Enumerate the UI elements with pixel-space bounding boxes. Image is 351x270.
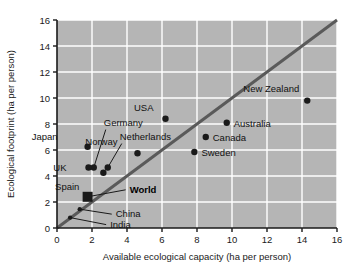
x-axis-tick-label: 8 [194,234,199,245]
data-point-canada[interactable] [203,134,209,140]
data-label-new-zealand: New Zealand [243,83,299,94]
data-point-netherlands[interactable] [105,164,111,170]
y-axis-tick-label: 12 [39,67,50,78]
y-axis-tick-label: 14 [39,41,50,52]
y-axis-tick-label: 16 [39,15,50,26]
data-label-china: China [116,208,142,219]
data-label-germany: Germany [104,117,143,128]
x-axis-tick-label: 6 [159,234,164,245]
y-axis-tick-label: 10 [39,93,50,104]
ecological-footprint-scatter-chart: 02468101214160246810121416Available ecol… [0,0,351,270]
data-point-new-zealand[interactable] [304,97,310,103]
data-label-sweden: Sweden [201,147,235,158]
y-axis-tick-label: 2 [45,197,50,208]
x-axis-tick-label: 14 [297,234,308,245]
x-axis-tick-label: 4 [124,234,129,245]
data-point-norway[interactable] [134,150,140,156]
y-axis-tick-label: 0 [45,223,50,234]
data-point-china[interactable] [78,207,82,211]
data-label-spain: Spain [55,181,79,192]
x-axis-tick-label: 0 [54,234,59,245]
x-axis-title: Available ecological capacity (ha per pe… [103,251,291,262]
x-axis-tick-label: 12 [262,234,273,245]
data-label-world: World [130,184,157,195]
data-point-india[interactable] [68,215,72,219]
y-axis-tick-label: 6 [45,145,50,156]
chart-canvas: 02468101214160246810121416Available ecol… [0,0,351,270]
data-point-australia[interactable] [224,120,230,126]
data-label-uk: UK [53,162,67,173]
x-axis-tick-label: 16 [332,234,343,245]
y-axis-tick-label: 4 [45,171,50,182]
data-label-norway: Norway [85,136,117,147]
data-point-sweden[interactable] [191,149,197,155]
data-label-japan: Japan [32,131,58,142]
data-label-usa: USA [134,102,154,113]
x-axis-tick-label: 2 [89,234,94,245]
data-point-usa[interactable] [162,116,168,122]
y-axis-tick-label: 8 [45,119,50,130]
data-label-netherlands: Netherlands [120,131,171,142]
y-axis-title: Ecological footprint (ha per person) [5,50,16,198]
data-point-uk[interactable] [85,164,91,170]
data-label-australia: Australia [234,118,272,129]
data-label-india: India [110,219,131,230]
data-label-canada: Canada [213,132,247,143]
data-point-spain[interactable] [100,170,106,176]
x-axis-tick-label: 10 [227,234,238,245]
data-point-world[interactable] [83,192,93,202]
